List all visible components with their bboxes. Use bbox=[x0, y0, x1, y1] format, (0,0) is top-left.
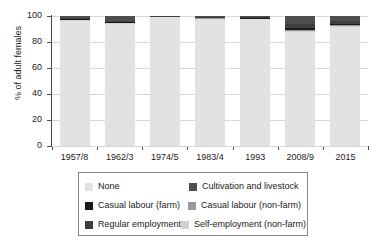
bar-segment bbox=[195, 17, 225, 18]
y-tick-label: 0 bbox=[2, 140, 42, 150]
bar-segment bbox=[330, 25, 360, 26]
bar-segment bbox=[285, 32, 315, 146]
legend-swatch-icon bbox=[85, 221, 93, 229]
bar-segment bbox=[330, 26, 360, 27]
bar-segment bbox=[330, 16, 360, 21]
bar-segment bbox=[150, 16, 180, 146]
legend-item[interactable]: Regular employment bbox=[85, 220, 181, 229]
bar-2008-9 bbox=[285, 16, 315, 146]
y-tick-label: 20 bbox=[2, 114, 42, 124]
chart-legend: NoneCultivation and livestockCasual labo… bbox=[78, 172, 308, 236]
bar-segment bbox=[285, 16, 315, 24]
bar-1962-3 bbox=[105, 16, 135, 146]
bar-segment bbox=[240, 19, 270, 146]
plot-area bbox=[52, 16, 368, 146]
legend-label: Cultivation and livestock bbox=[202, 182, 299, 191]
stacked-bar-chart: % of adult females 020406080100 1957/819… bbox=[0, 0, 386, 246]
bar-segment bbox=[60, 18, 90, 19]
bar-segment bbox=[60, 19, 90, 20]
bar-segment bbox=[105, 22, 135, 23]
bar-segment bbox=[105, 23, 135, 146]
legend-row: NoneCultivation and livestock bbox=[85, 177, 301, 196]
legend-row: Regular employmentSelf-employment (non-f… bbox=[85, 215, 301, 234]
x-tick-label: 2015 bbox=[317, 152, 373, 162]
bar-segment bbox=[285, 24, 315, 29]
bar-segment bbox=[240, 18, 270, 19]
bar-segment bbox=[195, 17, 225, 18]
y-tick-label: 60 bbox=[2, 62, 42, 72]
legend-label: Casual labour (farm) bbox=[98, 201, 180, 210]
legend-item[interactable]: Cultivation and livestock bbox=[189, 182, 299, 191]
bar-1993 bbox=[240, 16, 270, 146]
legend-swatch-icon bbox=[85, 183, 93, 191]
gridline bbox=[52, 146, 368, 147]
bar-1983-4 bbox=[195, 16, 225, 146]
legend-swatch-icon bbox=[189, 183, 197, 191]
bar-segment bbox=[60, 16, 90, 18]
legend-label: Regular employment bbox=[98, 220, 181, 229]
bar-segment bbox=[60, 19, 90, 20]
y-tick-mark bbox=[47, 42, 51, 43]
bar-segment bbox=[195, 16, 225, 17]
legend-item[interactable]: Self-employment (non-farm) bbox=[181, 220, 306, 229]
y-tick-mark bbox=[47, 120, 51, 121]
y-tick-label: 40 bbox=[2, 88, 42, 98]
legend-swatch-icon bbox=[181, 221, 189, 229]
bar-segment bbox=[240, 16, 270, 17]
bar-segment bbox=[285, 28, 315, 30]
y-tick-mark bbox=[47, 68, 51, 69]
bar-segment bbox=[105, 21, 135, 22]
legend-swatch-icon bbox=[188, 202, 196, 210]
bar-1974-5 bbox=[150, 16, 180, 146]
legend-label: None bbox=[98, 182, 120, 191]
y-tick-label: 80 bbox=[2, 36, 42, 46]
bar-segment bbox=[330, 21, 360, 25]
y-tick-mark bbox=[47, 16, 51, 17]
y-tick-mark bbox=[47, 94, 51, 95]
legend-label: Casual labour (non-farm) bbox=[201, 201, 301, 210]
bar-segment bbox=[330, 24, 360, 25]
bar-2015 bbox=[330, 16, 360, 146]
bar-segment bbox=[60, 20, 90, 146]
y-tick-label: 100 bbox=[2, 10, 42, 20]
y-tick-mark bbox=[47, 146, 51, 147]
bar-segment bbox=[150, 16, 180, 17]
bar-segment bbox=[285, 31, 315, 32]
bar-segment bbox=[330, 26, 360, 146]
bar-segment bbox=[195, 18, 225, 146]
legend-item[interactable]: None bbox=[85, 182, 189, 191]
x-tick-mark bbox=[368, 146, 369, 150]
legend-row: Casual labour (farm)Casual labour (non-f… bbox=[85, 196, 301, 215]
bar-segment bbox=[105, 16, 135, 21]
legend-item[interactable]: Casual labour (farm) bbox=[85, 201, 188, 210]
legend-swatch-icon bbox=[85, 202, 93, 210]
bar-1957-8 bbox=[60, 16, 90, 146]
bar-segment bbox=[240, 17, 270, 18]
legend-item[interactable]: Casual labour (non-farm) bbox=[188, 201, 301, 210]
bar-segment bbox=[285, 30, 315, 31]
legend-label: Self-employment (non-farm) bbox=[194, 220, 306, 229]
